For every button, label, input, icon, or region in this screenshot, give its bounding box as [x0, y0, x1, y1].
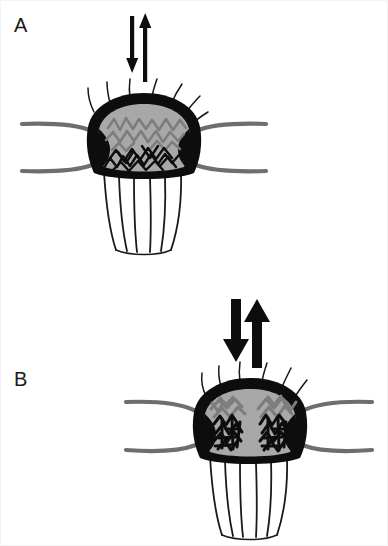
up-arrow — [139, 13, 151, 82]
panel-label-b: B — [14, 368, 27, 390]
spine-neck-fan — [104, 172, 181, 255]
panel-a: A — [14, 13, 266, 255]
up-arrow — [244, 299, 270, 368]
panel-b: B — [14, 299, 372, 540]
down-arrow — [223, 299, 249, 362]
figure-root: A — [0, 0, 388, 546]
panel-label-a: A — [14, 14, 28, 36]
arrow-pair-b — [223, 299, 270, 368]
spine-neck-fan — [210, 457, 287, 540]
synapse-schematic-svg: A — [0, 0, 388, 546]
arrow-pair-a — [126, 13, 151, 82]
down-arrow — [126, 16, 138, 73]
